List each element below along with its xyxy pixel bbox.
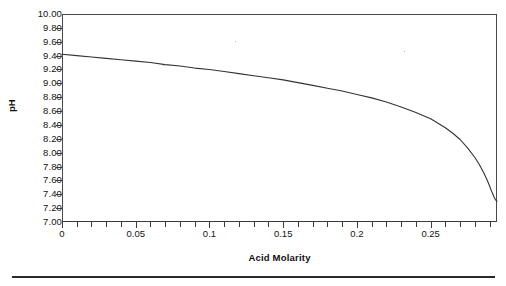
x-tick-mark [313,222,314,227]
chart-figure: 10.009.809.609.409.209.008.808.608.408.2… [0,0,506,286]
x-tick-mark [165,222,166,227]
x-tick-mark [239,222,240,227]
x-tick-mark [460,222,461,227]
x-tick-label: 0 [59,229,64,239]
x-tick-mark [475,222,476,227]
x-tick-mark [268,222,269,227]
y-tick-label: 7.00 [18,217,62,227]
scan-speckle [235,41,236,42]
x-tick-mark [342,222,343,227]
y-axis-title: pH [6,99,17,112]
x-tick-mark [445,222,446,227]
x-tick-mark [386,222,387,227]
x-axis-title: Acid Molarity [62,252,497,263]
x-tick-mark [224,222,225,227]
x-tick-mark [195,222,196,227]
x-tick-label: 0.1 [203,229,216,239]
x-tick-mark [327,222,328,227]
x-tick-label: 0.25 [421,229,440,239]
x-tick-mark [91,222,92,227]
x-tick-mark [401,222,402,227]
y-axis: 10.009.809.609.409.209.008.808.608.408.2… [0,0,62,286]
x-tick-mark [254,222,255,227]
x-tick-label: 0.15 [274,229,293,239]
bottom-divider [12,276,495,278]
y-tick-label: 10.00 [18,9,62,19]
x-tick-mark [77,222,78,227]
x-tick-mark [106,222,107,227]
x-tick-mark [121,222,122,227]
x-tick-label: 0.05 [126,229,145,239]
scan-speckle [163,65,164,66]
x-tick-mark [372,222,373,227]
x-tick-mark [150,222,151,227]
x-tick-mark [180,222,181,227]
x-tick-mark [298,222,299,227]
data-curve [62,14,497,222]
x-tick-label: 0.2 [350,229,363,239]
x-tick-mark [416,222,417,227]
scan-speckle [404,51,405,52]
x-tick-mark [490,222,491,227]
